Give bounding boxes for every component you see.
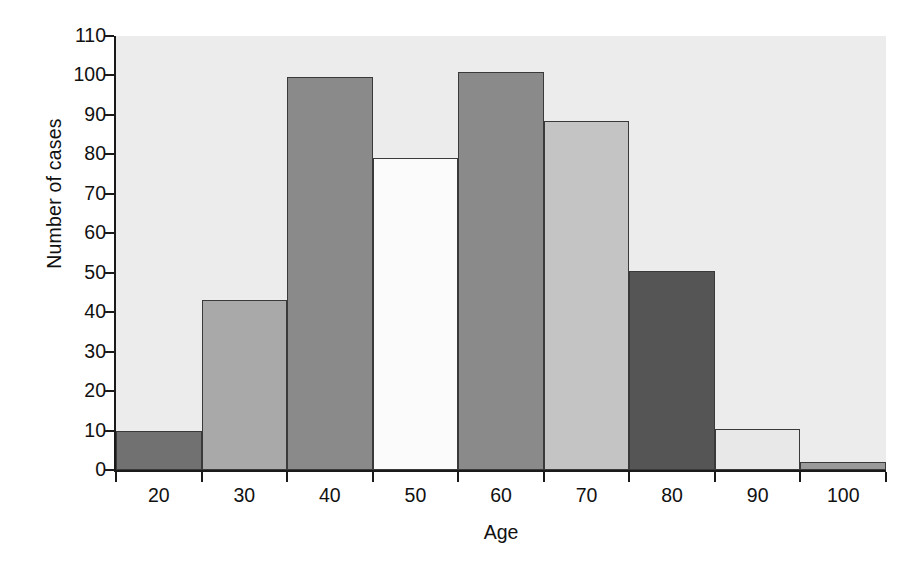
y-axis-tick-label: 30	[18, 342, 106, 362]
y-axis-tick-label: 70	[18, 184, 106, 204]
bar	[287, 77, 373, 470]
y-axis-tick-label: 90	[18, 105, 106, 125]
x-axis-tick-mark	[714, 472, 716, 482]
bar	[373, 158, 459, 470]
y-axis-tick-label: 0	[18, 460, 106, 480]
x-axis-tick-mark	[115, 472, 117, 482]
x-axis-tick-mark	[372, 472, 374, 482]
x-axis-tick-mark	[457, 472, 459, 482]
y-axis-tick-label: 80	[18, 145, 106, 165]
x-axis-title: Age	[116, 521, 886, 544]
x-axis-tick-label: 70	[542, 486, 632, 506]
y-axis-tick-mark	[105, 430, 114, 432]
y-axis-tick-label: 50	[18, 263, 106, 283]
y-axis-tick-mark	[105, 35, 114, 37]
y-axis-tick-mark	[105, 390, 114, 392]
x-axis-tick-mark	[628, 472, 630, 482]
y-axis-tick-label: 100	[18, 66, 106, 86]
bar	[458, 72, 544, 470]
x-axis-tick-label: 20	[114, 486, 204, 506]
y-axis-tick-mark	[105, 469, 114, 471]
bar	[544, 121, 630, 470]
y-axis-tick-mark	[105, 153, 114, 155]
y-axis-tick-label: 20	[18, 381, 106, 401]
y-axis-tick-mark	[105, 193, 114, 195]
bar	[202, 300, 288, 470]
y-axis-tick-label: 60	[18, 224, 106, 244]
x-axis-tick-label: 40	[285, 486, 375, 506]
x-axis-tick-label: 30	[199, 486, 289, 506]
x-axis-tick-mark	[286, 472, 288, 482]
y-axis-tick-mark	[105, 311, 114, 313]
bar	[116, 431, 202, 470]
y-axis-tick-label: 110	[18, 26, 106, 46]
y-axis-tick-label: 40	[18, 302, 106, 322]
y-axis-tick-mark	[105, 232, 114, 234]
x-axis-tick-label: 80	[627, 486, 717, 506]
bar	[800, 462, 886, 470]
x-axis-tick-label: 60	[456, 486, 546, 506]
x-axis-tick-label: 100	[798, 486, 888, 506]
x-axis-line	[114, 470, 886, 472]
x-axis-tick-label: 50	[370, 486, 460, 506]
x-axis-tick-mark	[201, 472, 203, 482]
x-axis-tick-mark	[885, 472, 887, 482]
y-axis-tick-mark	[105, 74, 114, 76]
bar	[629, 271, 715, 470]
bar-chart-figure: Number of cases 010203040506070809010011…	[0, 0, 906, 561]
y-axis-tick-label-group: 0102030405060708090100110	[18, 0, 106, 561]
x-axis-tick-mark	[799, 472, 801, 482]
y-axis-tick-mark	[105, 272, 114, 274]
bar	[715, 429, 801, 470]
x-axis-tick-label: 90	[713, 486, 803, 506]
x-axis-tick-mark	[543, 472, 545, 482]
y-axis-tick-mark	[105, 114, 114, 116]
y-axis-tick-label: 10	[18, 421, 106, 441]
y-axis-tick-mark	[105, 351, 114, 353]
plot-area	[116, 36, 886, 470]
x-axis-tick-label-group: 2030405060708090100	[0, 486, 906, 516]
